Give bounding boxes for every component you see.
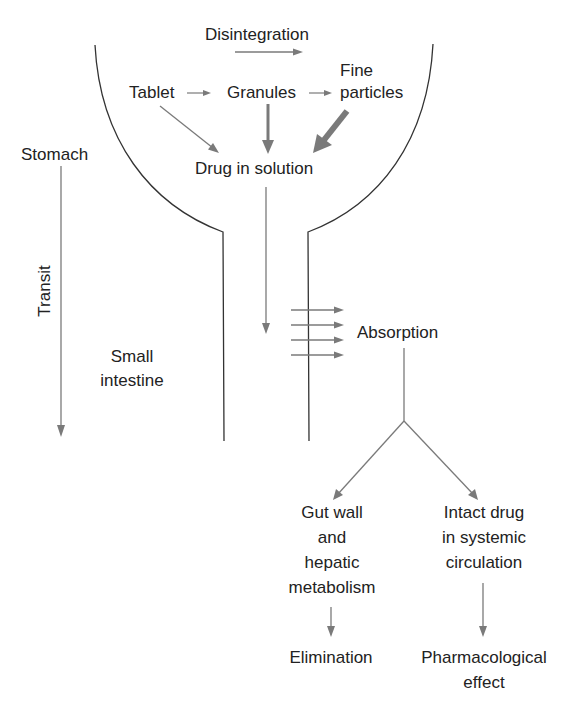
stomach-right-wall [308, 44, 433, 441]
granules-to-solution-arrow-icon [262, 104, 274, 154]
fine-particles-to-solution-arrow-icon [313, 111, 347, 153]
drug-in-solution-label: Drug in solution [195, 159, 313, 178]
solution-to-intestine-arrow-icon [262, 187, 270, 334]
tablet-to-granules-arrow-icon [187, 90, 211, 96]
transit-arrow-icon [57, 166, 65, 437]
tablet-to-solution-arrow-icon [160, 106, 219, 153]
metabolism-to-elimination-arrow-icon [327, 607, 335, 637]
gut-wall-label-line3: hepatic [305, 553, 360, 572]
stomach-label: Stomach [21, 145, 88, 164]
transit-label: Transit [35, 265, 54, 317]
intact-drug-label-line3: circulation [446, 553, 523, 572]
gut-wall-label-line4: metabolism [289, 578, 376, 597]
granules-to-fine-particles-arrow-icon [309, 90, 332, 96]
fine-particles-label-line2: particles [340, 83, 403, 102]
pharmacological-effect-label-line2: effect [463, 673, 505, 692]
absorption-label: Absorption [357, 323, 438, 342]
elimination-label: Elimination [289, 648, 372, 667]
tablet-label: Tablet [129, 83, 175, 102]
fine-particles-label-line1: Fine [340, 61, 373, 80]
intact-drug-label-line1: Intact drug [444, 503, 524, 522]
absorption-arrows-icon [291, 307, 344, 359]
circulation-to-effect-arrow-icon [479, 583, 487, 637]
granules-label: Granules [227, 83, 296, 102]
gut-wall-label-line2: and [318, 528, 346, 547]
small-intestine-label-line2: intestine [100, 371, 163, 390]
small-intestine-label-line1: Small [111, 347, 154, 366]
gut-wall-label-line1: Gut wall [301, 503, 362, 522]
pharmacological-effect-label-line1: Pharmacological [421, 648, 547, 667]
disintegration-label: Disintegration [205, 25, 309, 44]
disintegration-arrow-icon [235, 49, 303, 56]
drug-absorption-diagram: Disintegration Tablet Granules Fine part… [0, 0, 579, 716]
intact-drug-label-line2: in systemic [442, 528, 527, 547]
absorption-fork-icon [333, 348, 478, 500]
